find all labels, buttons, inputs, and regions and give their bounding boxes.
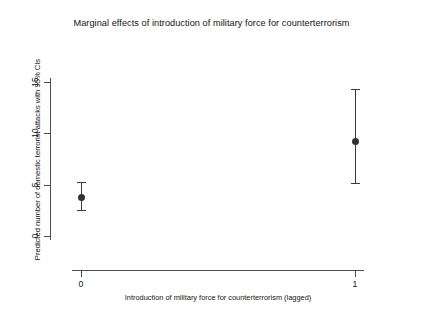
y-axis-title: Predicted number of domestic terrorist a… (33, 55, 42, 265)
chart-title: Marginal effects of introduction of mili… (0, 18, 423, 28)
x-axis-tick-1 (355, 271, 356, 277)
error-cap-lower-0 (77, 210, 86, 211)
y-axis-tick-5 (44, 185, 50, 186)
data-point-1 (352, 138, 359, 145)
error-cap-upper-1 (351, 89, 360, 90)
x-tick-label-1: 1 (340, 279, 370, 289)
y-axis-tick-15 (44, 82, 50, 83)
x-axis-line (72, 270, 364, 271)
error-bar-1 (355, 89, 356, 182)
y-axis-tick-0 (44, 236, 50, 237)
chart-canvas: Marginal effects of introduction of mili… (0, 0, 423, 316)
x-tick-label-0: 0 (66, 279, 96, 289)
y-axis-tick-10 (44, 133, 50, 134)
data-point-0 (78, 194, 85, 201)
error-cap-lower-1 (351, 183, 360, 184)
y-axis-line (50, 78, 51, 240)
x-axis-tick-0 (81, 271, 82, 277)
error-cap-upper-0 (77, 182, 86, 183)
x-axis-title: Introduction of military force for count… (72, 293, 364, 302)
